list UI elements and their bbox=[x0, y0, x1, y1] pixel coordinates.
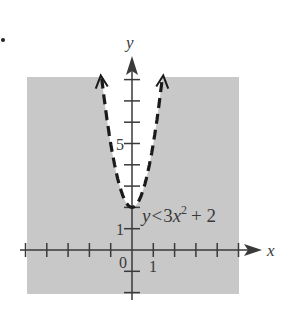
y-tick-label-1: 1 bbox=[116, 221, 124, 238]
y-axis-label: y bbox=[124, 33, 134, 52]
x-axis-label: x bbox=[266, 241, 275, 260]
ineq-coef: 3 bbox=[163, 205, 173, 226]
ineq-op: < bbox=[151, 205, 162, 226]
inequality-graph: y x 5 1 0 1 y<3x2+ 2 bbox=[0, 0, 292, 309]
inequality-label: y<3x2+ 2 bbox=[140, 203, 216, 226]
ineq-exp: 2 bbox=[181, 203, 187, 217]
y-tick-label-5: 5 bbox=[116, 136, 124, 153]
x-tick-label-1: 1 bbox=[149, 258, 157, 275]
ineq-rest: + 2 bbox=[191, 205, 216, 226]
origin-label: 0 bbox=[119, 254, 127, 271]
ineq-lhs: y bbox=[140, 205, 151, 226]
problem-marker bbox=[1, 38, 5, 42]
